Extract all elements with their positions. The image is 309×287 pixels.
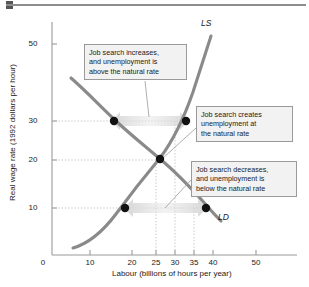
point-ls-at-wage-10	[121, 204, 129, 212]
x-tick-label-50: 50	[248, 258, 264, 267]
y-tick-label-10: 10	[24, 203, 42, 212]
x-tick-label-40: 40	[205, 258, 221, 267]
y-tick-label-30: 30	[24, 116, 42, 125]
y-axis-ticks	[52, 44, 57, 208]
point-ld-at-wage-30	[110, 117, 118, 125]
leader-line-anno-0	[145, 81, 149, 117]
figure-container: 50 30 20 10 0 10 20 25 30 35 40 50 Labou…	[0, 0, 309, 287]
x-tick-label-20: 20	[124, 258, 140, 267]
annotation-above-natural-rate: Job search increases, and unemployment i…	[84, 44, 187, 80]
annotation-at-natural-rate: Job search creates unemployment at the n…	[196, 106, 293, 142]
leader-line-anno-1	[163, 128, 196, 158]
grid-guides	[52, 121, 208, 255]
x-tick-label-10: 10	[82, 258, 98, 267]
point-ld-at-wage-10	[202, 204, 210, 212]
x-tick-label-30: 30	[167, 258, 183, 267]
point-equilibrium	[156, 155, 164, 163]
curve-label-ls: LS	[201, 18, 211, 28]
x-tick-label-35: 35	[186, 258, 202, 267]
annotation-below-natural-rate: Job search decreases, and unemployment i…	[191, 161, 297, 197]
x-axis-ticks	[90, 250, 256, 255]
x-axis-title: Labour (billions of hours per year)	[112, 269, 232, 278]
x-tick-label-25: 25	[148, 258, 164, 267]
x-tick-label-0: 0	[36, 258, 50, 267]
y-tick-label-20: 20	[24, 155, 42, 164]
curve-label-ld: LD	[218, 212, 229, 222]
y-tick-label-50: 50	[24, 39, 42, 48]
y-axis-title: Real wage rate (1992 dollars per hour)	[8, 58, 17, 208]
point-ls-at-wage-30	[182, 117, 190, 125]
